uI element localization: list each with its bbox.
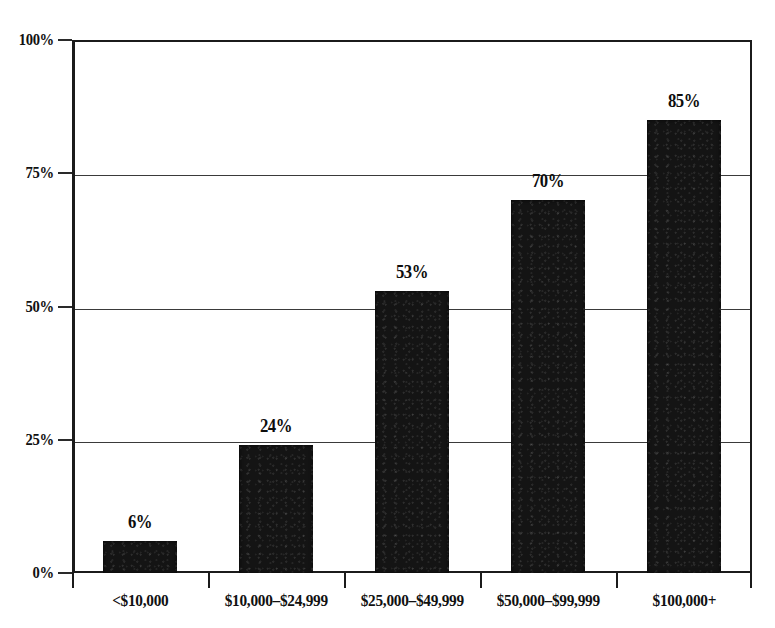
y-axis-tick-mark (58, 306, 72, 308)
bar-value-label: 24% (258, 415, 295, 437)
x-axis-tick-mark (208, 573, 210, 588)
x-axis-tick-label: $100,000+ (616, 591, 752, 611)
bars-layer: 6%24%53%70%85% (72, 40, 752, 573)
x-axis-tick-mark (750, 573, 752, 588)
x-axis-tick-mark (480, 573, 482, 588)
bar-group: 24% (208, 40, 344, 573)
y-axis-tick-label: 75% (26, 163, 54, 183)
bar-group: 70% (480, 40, 616, 573)
x-axis-tick-label-text: $50,000–$99,999 (496, 591, 599, 611)
y-axis-tick-label: 25% (26, 430, 54, 450)
bar-chart: ’ 100%75%50%25%0% 6%24%53%70%85% <$10,00… (0, 0, 775, 628)
x-axis-tick-label: $25,000–$49,999 (344, 591, 480, 611)
bar-group: 85% (616, 40, 752, 573)
bar-value-text: 85% (668, 90, 700, 112)
bar-value-text: 70% (532, 170, 564, 192)
y-axis-tick: 100% (13, 29, 72, 51)
x-axis-tick-label: <$10,000 (72, 591, 208, 611)
x-axis-tick-label-text: $100,000+ (652, 591, 716, 611)
bar[interactable] (511, 200, 585, 573)
y-axis-tick: 0% (29, 562, 72, 584)
bar-value-label: 85% (666, 90, 703, 112)
y-axis-tick-mark (58, 172, 72, 174)
x-axis-tick-mark (72, 573, 74, 588)
x-axis-tick-label: $10,000–$24,999 (208, 591, 344, 611)
x-axis-tick-mark (344, 573, 346, 588)
y-axis-tick: 50% (21, 296, 72, 318)
bar-value-text: 53% (396, 261, 428, 283)
y-axis-tick-mark (58, 39, 72, 41)
bar[interactable] (375, 291, 449, 573)
bar-value-label: 6% (126, 511, 154, 533)
y-axis-tick: 25% (21, 429, 72, 451)
x-axis-tick-label-text: $10,000–$24,999 (224, 591, 327, 611)
y-axis-tick-label: 100% (19, 30, 54, 50)
y-axis-tick-label: 0% (33, 563, 54, 583)
x-axis-tick-label: $50,000–$99,999 (480, 591, 616, 611)
y-axis-tick-label: 50% (26, 297, 54, 317)
bar-value-label: 70% (530, 170, 567, 192)
bar-value-text: 6% (128, 511, 152, 533)
bar-value-text: 24% (260, 415, 292, 437)
bar-value-label: 53% (394, 261, 431, 283)
bar[interactable] (239, 445, 313, 573)
x-axis-tick-label-text: <$10,000 (112, 591, 168, 611)
y-axis-tick-mark (58, 439, 72, 441)
bar[interactable] (103, 541, 177, 573)
x-axis-tick-mark (616, 573, 618, 588)
bar-group: 6% (72, 40, 208, 573)
bar-group: 53% (344, 40, 480, 573)
bar[interactable] (647, 120, 721, 573)
y-axis-tick-mark (58, 572, 72, 574)
y-axis-tick: 75% (21, 162, 72, 184)
x-axis-tick-label-text: $25,000–$49,999 (360, 591, 463, 611)
x-axis: <$10,000$10,000–$24,999$25,000–$49,999$5… (72, 573, 752, 628)
y-axis: 100%75%50%25%0% (0, 40, 72, 573)
